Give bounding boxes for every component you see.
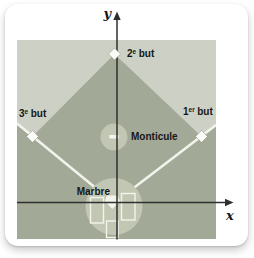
third-base-number: 3 <box>19 108 25 119</box>
first-base-label: 1erbut <box>183 106 213 119</box>
first-base-word: but <box>197 106 213 117</box>
x-axis-arrow <box>225 199 234 206</box>
third-base-word: but <box>31 108 47 119</box>
x-axis-label: x <box>226 209 234 222</box>
home-plate-label: Marbre <box>70 186 110 198</box>
second-base-word: but <box>139 48 155 59</box>
third-base-ordinal: e <box>25 108 29 115</box>
baseball-field-diagram <box>0 0 254 258</box>
first-base-ordinal: er <box>189 106 195 113</box>
third-base-label: 3ebut <box>19 108 46 121</box>
y-axis-label: y <box>96 7 111 20</box>
second-base-label: 2ebut <box>127 48 154 61</box>
y-axis-arrow <box>113 12 120 21</box>
mound-label: Monticule <box>131 131 178 143</box>
second-base-number: 2 <box>127 48 133 59</box>
first-base-number: 1 <box>183 106 189 117</box>
second-base-ordinal: e <box>133 48 137 55</box>
